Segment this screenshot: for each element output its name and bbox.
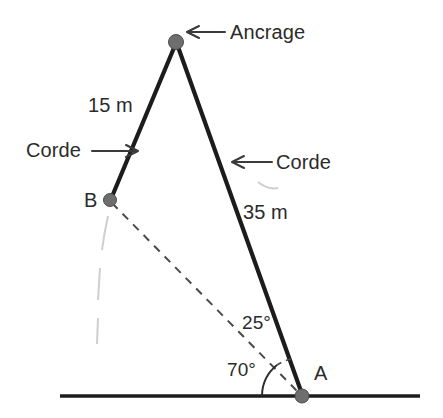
rope-left-segment (111, 43, 176, 199)
label-angle-70: 70° (227, 360, 256, 379)
diagram-canvas (0, 0, 443, 418)
point-b-dot[interactable] (104, 194, 117, 207)
point-a-dot[interactable] (295, 389, 309, 403)
label-corde-right: Corde (276, 152, 331, 172)
label-point-a: A (314, 363, 327, 383)
geometry-diagram: Ancrage 15 m Corde Corde 35 m B 25° 70° … (0, 0, 443, 418)
segment-b-to-a-dashed (112, 203, 300, 394)
label-angle-25: 25° (242, 313, 271, 332)
point-anchor-dot[interactable] (169, 35, 184, 50)
label-point-b: B (84, 190, 97, 210)
scan-smudge (258, 182, 278, 188)
scan-smudge (98, 268, 100, 300)
scan-smudge (102, 216, 108, 250)
label-corde-left: Corde (26, 140, 81, 160)
label-rope-right-length: 35 m (243, 202, 288, 222)
label-rope-left-length: 15 m (88, 95, 133, 115)
scan-smudge (97, 318, 98, 344)
label-ancrage: Ancrage (230, 22, 305, 42)
